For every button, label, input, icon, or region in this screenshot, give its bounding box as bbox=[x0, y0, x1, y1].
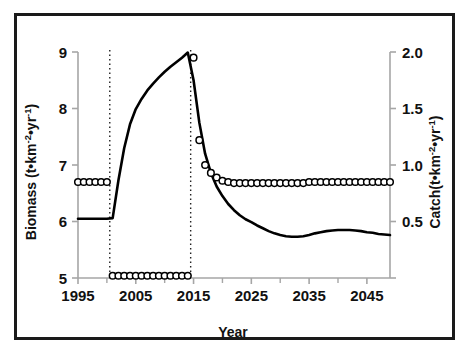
x-tick-label: 1995 bbox=[61, 287, 94, 304]
y2-tick-label: 1.5 bbox=[402, 100, 423, 117]
y-tick-label: 6 bbox=[59, 213, 67, 230]
catch-data-point bbox=[387, 179, 394, 186]
y-tick-label: 8 bbox=[59, 100, 67, 117]
y-tick-label: 5 bbox=[59, 270, 67, 287]
x-axis-title: Year bbox=[218, 324, 248, 340]
x-tick-label: 2035 bbox=[292, 287, 325, 304]
y-axis-title: Biomass (t•km-2•yr-1) bbox=[22, 104, 39, 240]
x-tick-label: 2015 bbox=[177, 287, 210, 304]
chart-plot-area: 567890.51.01.52.019952005201520252035204… bbox=[0, 0, 476, 353]
figure-container: 567890.51.01.52.019952005201520252035204… bbox=[0, 0, 476, 353]
biomass-series-line bbox=[78, 53, 390, 237]
catch-data-point bbox=[208, 170, 215, 177]
x-tick-label: 2025 bbox=[235, 287, 268, 304]
y2-tick-label: 2.0 bbox=[402, 44, 423, 61]
x-tick-label: 2005 bbox=[119, 287, 152, 304]
catch-data-point bbox=[202, 162, 209, 169]
catch-data-point bbox=[104, 179, 111, 186]
catch-markers bbox=[75, 54, 394, 279]
y-tick-label: 7 bbox=[59, 157, 67, 174]
y2-tick-label: 0.5 bbox=[402, 213, 423, 230]
tick-labels-group: 567890.51.01.52.019952005201520252035204… bbox=[59, 44, 423, 305]
catch-data-point bbox=[196, 137, 203, 144]
catch-data-point bbox=[184, 272, 191, 279]
catch-data-point bbox=[190, 54, 197, 61]
biomass-catch-chart: 567890.51.01.52.019952005201520252035204… bbox=[0, 0, 476, 353]
y2-axis-title: Catch(t•km-2•yr-1) bbox=[426, 115, 443, 228]
y2-tick-label: 1.0 bbox=[402, 157, 423, 174]
biomass-line bbox=[78, 53, 390, 237]
x-tick-label: 2045 bbox=[350, 287, 383, 304]
y-tick-label: 9 bbox=[59, 44, 67, 61]
